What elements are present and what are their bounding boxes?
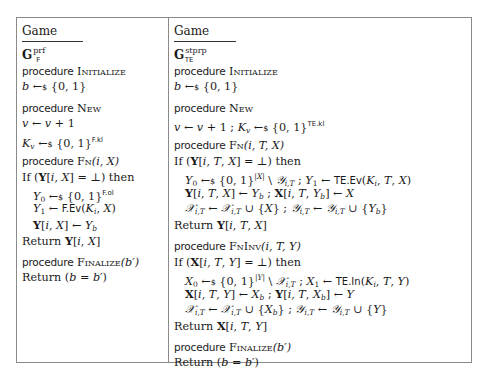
kw-procedure: procedure — [174, 240, 225, 252]
title-symbol: G — [22, 48, 32, 62]
proc-finalize-header: procedure Finalize(b′) — [174, 339, 471, 355]
proc-fn-header: procedure Fn(i, X) — [22, 153, 168, 169]
code-line: Y[i, T, X] ← Yb ; X[i, T, Yb] ← X — [174, 185, 471, 201]
proc-name: Initialize — [77, 65, 126, 78]
code-line: If (X[i, T, Y] = ⊥) then — [174, 254, 471, 270]
proc-args: (b′) — [273, 341, 291, 354]
proc-name: New — [229, 102, 253, 115]
proc-args: (i, X) — [92, 155, 119, 168]
proc-name: FnInv — [229, 240, 261, 253]
games-figure: Game GprfF procedure Initialize b ←$ {0,… — [16, 17, 472, 363]
proc-new-header: procedure New — [22, 100, 168, 116]
kw-procedure: procedure — [174, 65, 225, 77]
kw-procedure: procedure — [22, 65, 73, 77]
proc-fn-header: procedure Fn(i, T, X) — [174, 137, 471, 153]
code-line: Return X[i, T, Y] — [174, 318, 471, 334]
code-line: Return Y[i, X] — [22, 233, 168, 249]
proc-name: Finalize — [77, 256, 121, 269]
proc-new-header: procedure New — [174, 100, 471, 116]
game-prf-title: Game GprfF — [22, 22, 83, 42]
code-line: If (Y[i, X] = ⊥) then — [22, 169, 168, 185]
game-prf-column: Game GprfF procedure Initialize b ←$ {0,… — [17, 18, 168, 362]
code-line: b ←$ {0, 1} — [174, 79, 471, 95]
code-line: Y0 ←$ {0, 1}F.ol — [22, 185, 168, 201]
kw-procedure: procedure — [22, 256, 73, 268]
title-superscript: prf — [33, 46, 45, 55]
code-line: Return (b = b′) — [22, 270, 168, 286]
kw-procedure: procedure — [174, 102, 225, 114]
proc-name: Fn — [229, 139, 244, 152]
kw-procedure: procedure — [174, 139, 225, 151]
code-line: b ←$ {0, 1} — [22, 79, 168, 95]
title-superscript: stprp — [185, 46, 206, 55]
proc-name: Fn — [77, 155, 92, 168]
proc-name: Initialize — [229, 65, 278, 78]
game-stprp-column: Game GstprpTE procedure Initialize b ←$ … — [168, 18, 471, 362]
title-word: Game — [174, 24, 209, 38]
code-line: X[i, T, Y] ← Xb ; Y[i, T, Xb] ← Y — [174, 286, 471, 302]
proc-args: (b′) — [121, 256, 139, 269]
title-symbol: G — [174, 48, 184, 62]
code-line: Return Y[i, T, X] — [174, 217, 471, 233]
code-line: X0 ←$ {0, 1}|Y| \ 𝒳i,T ; X1 ← TE.In(Ki, … — [174, 270, 471, 286]
proc-initialize-header: procedure Initialize — [22, 63, 168, 79]
kw-procedure: procedure — [22, 102, 73, 114]
proc-args: (i, T, X) — [244, 139, 284, 152]
code-line: 𝒳i,T ← 𝒳i,T ∪ {X} ; 𝒴i,T ← 𝒴i,T ∪ {Yb} — [174, 201, 471, 217]
code-line: Kv ←$ {0, 1}F.kl — [22, 132, 168, 148]
proc-name: Finalize — [229, 341, 273, 354]
kw-procedure: procedure — [174, 341, 225, 353]
code-line: Return (b = b′) — [174, 355, 471, 371]
code-line: Y1 ← F.Ev(Ki, X) — [22, 201, 168, 217]
title-word: Game — [22, 24, 57, 38]
code-line: v ← v + 1 — [22, 116, 168, 132]
proc-name: New — [77, 102, 101, 115]
code-line: Y[i, X] ← Yb — [22, 217, 168, 233]
proc-initialize-header: procedure Initialize — [174, 63, 471, 79]
code-line: 𝒳i,T ← 𝒳i,T ∪ {Xb} ; 𝒴i,T ← 𝒴i,T ∪ {Y} — [174, 302, 471, 318]
proc-args: (i, T, Y) — [261, 240, 301, 253]
proc-fninv-header: procedure FnInv(i, T, Y) — [174, 238, 471, 254]
game-stprp-title: Game GstprpTE — [174, 22, 236, 42]
kw-procedure: procedure — [22, 155, 73, 167]
proc-finalize-header: procedure Finalize(b′) — [22, 254, 168, 270]
code-line: If (Y[i, T, X] = ⊥) then — [174, 153, 471, 169]
code-line: v ← v + 1 ; Kv ←$ {0, 1}TE.kl — [174, 116, 471, 132]
code-line: Y0 ←$ {0, 1}|X| \ 𝒴i,T ; Y1 ← TE.Ev(Ki, … — [174, 169, 471, 185]
